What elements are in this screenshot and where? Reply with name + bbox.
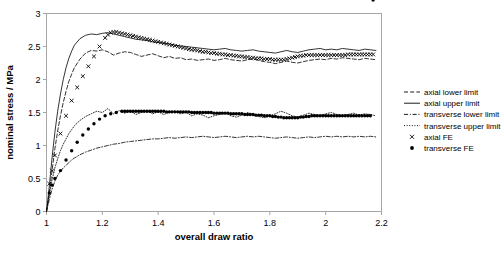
legend-item-transverse-upper-limit[interactable]: transverse upper limit — [404, 122, 501, 131]
y-tick-label: 1 — [35, 141, 40, 151]
x-tick-label: 2 — [323, 218, 328, 228]
y-tick-label: 0 — [35, 207, 40, 217]
x-tick-label: 1.4 — [152, 218, 165, 228]
series-axial-lower-limit — [47, 50, 376, 212]
data-point — [115, 111, 118, 114]
legend-item-transverse-lower-limit[interactable]: transverse lower limit — [404, 110, 500, 119]
legend-label: transverse lower limit — [424, 110, 500, 119]
data-point — [86, 64, 90, 68]
data-point — [76, 141, 79, 144]
data-point — [59, 169, 62, 172]
legend-marker-dot-icon — [410, 146, 414, 150]
data-point — [371, 0, 374, 2]
x-axis: 11.21.41.61.822.2 — [44, 212, 388, 228]
legend-item-axial-upper-limit[interactable]: axial upper limit — [404, 99, 480, 108]
data-point — [92, 122, 95, 125]
data-point — [109, 112, 112, 115]
x-tick-label: 2.2 — [375, 218, 388, 228]
data-point — [103, 114, 106, 117]
data-point — [53, 154, 57, 158]
series-path — [47, 33, 376, 212]
data-point — [53, 177, 56, 180]
data-point — [70, 149, 73, 152]
data-point — [64, 158, 67, 161]
x-tick-label: 1.6 — [208, 218, 221, 228]
legend-label: transverse upper limit — [424, 122, 501, 131]
legend-marker-x-icon — [410, 135, 414, 139]
legend-label: transverse FE — [424, 144, 474, 153]
x-axis-title: overall draw ratio — [175, 231, 254, 242]
legend-label: axial upper limit — [424, 99, 480, 108]
series-path — [47, 50, 376, 212]
data-point — [371, 53, 375, 57]
legend-item-axial-lower-limit[interactable]: axial lower limit — [404, 88, 479, 97]
series-path — [47, 136, 376, 211]
series-path — [47, 109, 376, 212]
series-transverse-upper-limit — [47, 109, 376, 212]
x-tick-label: 1.2 — [96, 218, 109, 228]
series-axial-FE — [47, 30, 375, 186]
data-point — [98, 117, 101, 120]
series-transverse-FE — [48, 0, 375, 195]
y-tick-label: 2.5 — [28, 42, 41, 52]
data-point — [81, 133, 84, 136]
legend-item-transverse-FE[interactable]: transverse FE — [410, 144, 474, 153]
y-axis-title: nominal stress / MPa — [4, 65, 15, 160]
x-tick-label: 1.8 — [264, 218, 277, 228]
y-tick-label: 1.5 — [28, 108, 41, 118]
y-tick-label: 2 — [35, 75, 40, 85]
stress-draw-ratio-chart: 00.511.522.5311.21.41.61.822.2overall dr… — [0, 0, 504, 262]
data-point — [48, 191, 51, 194]
data-point — [92, 55, 96, 59]
data-point — [75, 86, 79, 90]
series-group — [47, 0, 376, 211]
legend-item-axial-FE[interactable]: axial FE — [410, 133, 453, 142]
legend-label: axial lower limit — [424, 88, 479, 97]
x-tick-label: 1 — [44, 218, 49, 228]
data-point — [81, 74, 85, 78]
data-point — [59, 132, 63, 136]
data-point — [70, 99, 74, 103]
data-point — [369, 114, 372, 117]
series-transverse-lower-limit — [47, 136, 376, 211]
data-point — [50, 183, 53, 186]
y-tick-label: 0.5 — [28, 174, 41, 184]
series-axial-upper-limit — [47, 33, 376, 212]
legend: axial lower limitaxial upper limittransv… — [404, 88, 501, 153]
data-point — [87, 127, 90, 130]
data-point — [64, 114, 68, 118]
data-point — [98, 45, 102, 49]
y-tick-label: 3 — [35, 9, 40, 19]
legend-label: axial FE — [424, 133, 453, 142]
chart-figure: 00.511.522.5311.21.41.61.822.2overall dr… — [0, 0, 504, 262]
y-axis: 00.511.522.53 — [28, 9, 47, 217]
